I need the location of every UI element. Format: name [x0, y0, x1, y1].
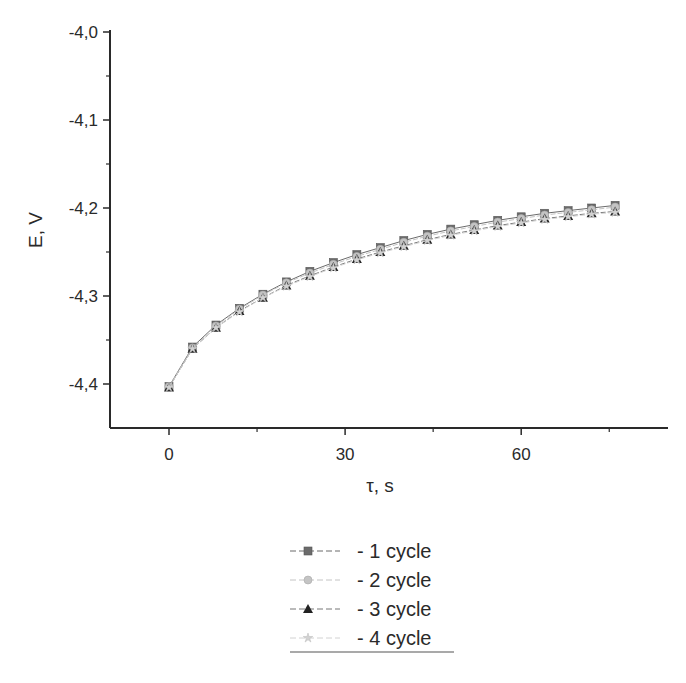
- series-line: [169, 207, 615, 387]
- legend-label: - 2 cycle: [357, 569, 431, 591]
- series-line: [169, 205, 615, 386]
- legend-item: - 1 cycle: [290, 540, 431, 562]
- series-line: [169, 212, 615, 387]
- legend-item: - 3 cycle: [290, 598, 431, 620]
- x-tick-label: 0: [164, 445, 173, 464]
- series-group: [164, 201, 620, 391]
- x-tick-label: 30: [336, 445, 355, 464]
- x-axis-title: τ, s: [366, 475, 394, 496]
- line-chart: -4,0-4,1-4,2-4,3-4,403060 τ, s E, V - 1 …: [0, 0, 686, 683]
- legend-item: - 2 cycle: [290, 569, 431, 591]
- legend-label: - 4 cycle: [357, 627, 431, 649]
- series-line: [169, 212, 615, 388]
- ticks: -4,0-4,1-4,2-4,3-4,403060: [69, 23, 610, 464]
- y-axis-title: E, V: [25, 212, 46, 248]
- axes: [110, 30, 668, 428]
- legend-label: - 1 cycle: [357, 540, 431, 562]
- series-1: [165, 201, 619, 390]
- legend: - 1 cycle- 2 cycle- 3 cycle- 4 cycle: [290, 540, 454, 652]
- series-2: [165, 203, 619, 391]
- y-tick-label: -4,2: [69, 199, 98, 218]
- legend-marker-star-icon: [303, 633, 313, 642]
- x-tick-label: 60: [512, 445, 531, 464]
- series-3: [164, 207, 620, 392]
- y-tick-label: -4,0: [69, 23, 98, 42]
- legend-item: - 4 cycle: [290, 627, 431, 649]
- series-4: [164, 207, 620, 391]
- legend-marker-circle-icon: [304, 576, 312, 584]
- legend-marker-square-icon: [304, 547, 312, 555]
- legend-label: - 3 cycle: [357, 598, 431, 620]
- y-tick-label: -4,4: [69, 375, 98, 394]
- y-tick-label: -4,1: [69, 111, 98, 130]
- y-tick-label: -4,3: [69, 287, 98, 306]
